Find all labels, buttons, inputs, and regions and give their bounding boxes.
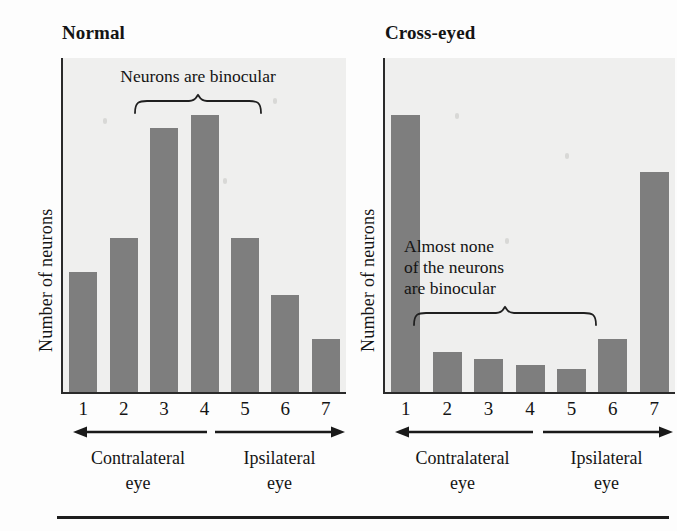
eye-labels-normal: Contralateral eye Ipsilateral eye [63, 446, 346, 506]
bar-cross-7 [640, 172, 669, 392]
bar-cross-5 [557, 369, 586, 392]
panel-normal: Normal Number of neurons Neurons are bin… [0, 0, 345, 531]
eye-labels-cross-eyed: Contralateral eye Ipsilateral eye [385, 446, 675, 506]
bar-normal-6 [271, 295, 299, 392]
x-tick-normal-3: 3 [153, 398, 175, 420]
y-axis-label-normal: Number of neurons [36, 209, 57, 352]
x-tick-cross-1: 1 [395, 398, 417, 420]
bar-normal-5 [231, 238, 259, 392]
ipsilateral-label-cross-eyed: Ipsilateral eye [540, 446, 673, 496]
ipsilateral-arrow-cross-eyed [543, 424, 673, 440]
bar-normal-1 [69, 272, 97, 392]
panel-title-normal: Normal [62, 22, 125, 44]
ipsilateral-label-normal: Ipsilateral eye [213, 446, 346, 496]
x-tick-labels-normal: 1 2 3 4 5 6 7 [63, 398, 346, 424]
bar-normal-2 [110, 238, 138, 392]
contralateral-label-cross-eyed: Contralateral eye [385, 446, 540, 496]
annotation-normal: Neurons are binocular [83, 66, 313, 87]
panel-cross-eyed: Cross-eyed Number of neurons Almost none… [332, 0, 677, 531]
brace-cross-eyed [412, 305, 598, 327]
bar-normal-3 [150, 128, 178, 392]
plot-area-cross-eyed [385, 58, 675, 392]
x-tick-cross-3: 3 [478, 398, 500, 420]
bar-normal-4 [191, 115, 219, 392]
bar-cross-3 [474, 359, 503, 392]
bar-cross-6 [598, 339, 627, 392]
x-tick-normal-6: 6 [274, 398, 296, 420]
bottom-divider-rule [57, 516, 669, 519]
y-axis-line-normal [61, 58, 63, 394]
x-tick-normal-1: 1 [72, 398, 94, 420]
contralateral-arrow-normal [73, 424, 209, 440]
x-axis-line-normal [61, 392, 346, 394]
brace-normal [133, 93, 263, 115]
y-axis-label-cross-eyed: Number of neurons [358, 209, 379, 352]
x-tick-cross-6: 6 [602, 398, 624, 420]
figure-page: Normal Number of neurons Neurons are bin… [0, 0, 677, 531]
bar-cross-4 [516, 365, 545, 392]
x-axis-line-cross-eyed [383, 392, 675, 394]
annotation-cross-eyed: Almost none of the neurons are binocular [404, 236, 624, 299]
x-tick-normal-4: 4 [194, 398, 216, 420]
contralateral-label-normal: Contralateral eye [63, 446, 213, 496]
x-tick-normal-5: 5 [234, 398, 256, 420]
bar-cross-2 [433, 352, 462, 392]
x-tick-cross-5: 5 [560, 398, 582, 420]
x-tick-normal-2: 2 [113, 398, 135, 420]
x-tick-labels-cross-eyed: 1 2 3 4 5 6 7 [385, 398, 675, 424]
x-tick-cross-2: 2 [436, 398, 458, 420]
ipsilateral-arrow-normal [215, 424, 345, 440]
x-tick-cross-4: 4 [519, 398, 541, 420]
y-axis-line-cross-eyed [383, 58, 385, 394]
x-tick-cross-7: 7 [643, 398, 665, 420]
panel-title-cross-eyed: Cross-eyed [385, 22, 475, 44]
contralateral-arrow-cross-eyed [395, 424, 535, 440]
